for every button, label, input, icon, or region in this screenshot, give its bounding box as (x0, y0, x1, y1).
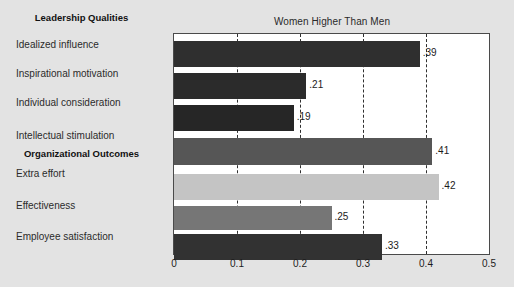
bar-value-extra-effort: .42 (442, 180, 456, 191)
x-tick-label-0.1: 0.1 (230, 258, 244, 269)
x-tick-label-0.2: 0.2 (293, 258, 307, 269)
x-tick-label-0.5: 0.5 (482, 258, 496, 269)
bar-intellectual-stimulation (174, 138, 432, 165)
category-label-column: Leadership Qualities Idealized influence… (0, 0, 173, 287)
x-axis: 00.10.20.30.40.5 (173, 256, 490, 276)
bar-idealized-influence (174, 41, 420, 67)
group-header-leadership-qualities: Leadership Qualities (0, 12, 163, 23)
x-tick-label-0.4: 0.4 (419, 258, 433, 269)
plot-area: .39.21.19.41.42.25.33 (173, 33, 490, 255)
chart-title: Women Higher Than Men (174, 16, 490, 27)
bar-effectiveness (174, 206, 332, 230)
category-label-effectiveness: Effectiveness (16, 200, 75, 211)
x-tick-label-0: 0 (171, 258, 177, 269)
bar-extra-effort (174, 174, 439, 200)
bar-value-employee-satisfaction: .33 (385, 240, 399, 251)
category-label-extra-effort: Extra effort (16, 168, 65, 179)
bar-chart: Women Higher Than Men Leadership Qualiti… (0, 0, 514, 287)
category-label-intellectual-stimulation: Intellectual stimulation (16, 130, 114, 141)
bar-value-individual-consideration: .19 (297, 111, 311, 122)
bar-value-effectiveness: .25 (335, 211, 349, 222)
bar-individual-consideration (174, 105, 294, 131)
x-tick-label-0.3: 0.3 (356, 258, 370, 269)
bar-value-idealized-influence: .39 (423, 47, 437, 58)
category-label-idealized-influence: Idealized influence (16, 39, 99, 50)
bar-value-inspirational-motivation: .21 (309, 79, 323, 90)
bar-value-intellectual-stimulation: .41 (435, 145, 449, 156)
category-label-employee-satisfaction: Employee satisfaction (16, 231, 113, 242)
category-label-individual-consideration: Individual consideration (16, 97, 121, 108)
bar-inspirational-motivation (174, 73, 306, 99)
category-label-inspirational-motivation: Inspirational motivation (16, 68, 118, 79)
group-header-organizational-outcomes: Organizational Outcomes (0, 148, 163, 159)
